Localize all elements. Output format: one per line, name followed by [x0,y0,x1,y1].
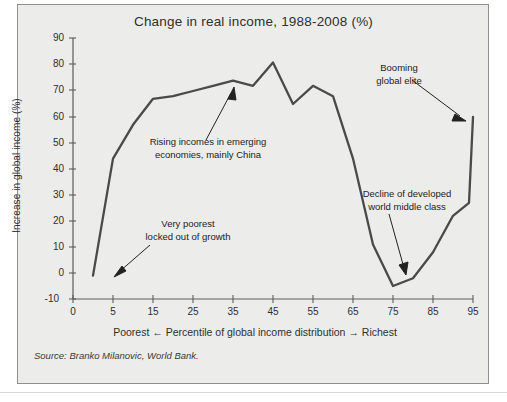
y-tick-label: 30 [38,189,64,200]
y-tick-label: 70 [38,84,64,95]
x-tick-label: 65 [340,306,366,317]
x-tick-label: 75 [380,306,406,317]
x-tick-label: 35 [220,306,246,317]
annotation-very-poorest-line1: Very poorest [128,218,248,231]
annotation-very-poorest-line2: locked out of growth [128,231,248,244]
data-series-line [93,62,473,286]
y-tick-label: -10 [33,293,59,304]
y-tick-label: 80 [38,58,64,69]
chart-figure: Change in real income, 1988-2008 (%) [0,0,507,402]
arrow-middleclass [389,214,404,268]
source-caption: Source: Branko Milanovic, World Bank. [34,350,199,361]
annotation-middle-class-line1: Decline of developed [338,188,476,201]
y-tick-label: 90 [38,32,64,43]
annotation-middle-class: Decline of developed world middle class [338,188,476,213]
x-tick-label: 95 [460,306,486,317]
annotation-booming-elite-line1: Booming [362,62,436,75]
x-tick-label: 85 [420,306,446,317]
x-tick-label: 55 [300,306,326,317]
annotation-arrows [114,80,466,277]
annotation-very-poorest: Very poorest locked out of growth [128,218,248,243]
y-tick-label: 0 [38,267,64,278]
arrow-emerging [206,93,231,140]
y-tick-label: 40 [38,163,64,174]
x-tick-label: 15 [140,306,166,317]
x-axis-title: Poorest ← Percentile of global income di… [40,326,470,338]
y-tick-label: 50 [38,137,64,148]
y-tick-label: 20 [38,215,64,226]
annotation-booming-elite: Booming global elite [362,62,436,87]
annotation-middle-class-line2: world middle class [338,201,476,214]
annotation-booming-elite-line2: global elite [362,75,436,88]
annotation-emerging-economies-line2: economies, mainly China [128,149,288,162]
y-tick-label: 10 [38,241,64,252]
annotation-emerging-economies: Rising incomes in emerging economies, ma… [128,136,288,161]
y-axis-title: Increase in global income (%) [11,56,22,276]
annotation-emerging-economies-line1: Rising incomes in emerging [128,136,288,149]
x-tick-label: 0 [60,306,86,317]
x-tick-label: 25 [180,306,206,317]
x-tick-label: 5 [100,306,126,317]
y-tick-label: 60 [38,111,64,122]
x-tick-label: 45 [260,306,286,317]
